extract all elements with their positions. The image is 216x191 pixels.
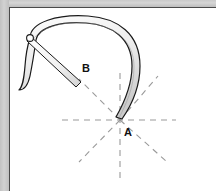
pivot-circle-icon	[27, 35, 34, 42]
straight-handle-rod	[27, 36, 81, 87]
scythe-geometry-svg	[0, 0, 216, 191]
construction-guides	[62, 73, 176, 181]
diagonal-down-left-guide-line	[79, 120, 120, 162]
diagram-canvas: A B	[0, 0, 216, 191]
point-label-b: B	[82, 63, 90, 74]
point-label-a: A	[124, 127, 132, 138]
diagonal-up-left-guide-line	[79, 79, 120, 120]
curved-scythe-blade	[19, 16, 140, 119]
